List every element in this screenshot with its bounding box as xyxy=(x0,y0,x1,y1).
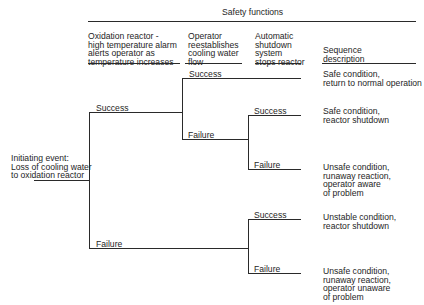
shutdown-split-a-line xyxy=(248,115,249,170)
operator-split-line xyxy=(182,78,183,140)
outcome-2: Safe condition, reactor shutdown xyxy=(323,107,389,124)
alarm-failure-line xyxy=(89,248,249,249)
column-header-sequence: Sequence description xyxy=(323,46,365,63)
safety-functions-title: Safety functions xyxy=(222,8,283,17)
initiating-event-label: Initiating event: Loss of cooling water … xyxy=(11,154,92,180)
shutdown-failure-b-line xyxy=(248,273,301,274)
column-underline-alarm xyxy=(88,63,180,64)
outcome-5: Unsafe condition, runaway reaction, oper… xyxy=(323,267,391,301)
outcome-1: Safe condition, return to normal operati… xyxy=(323,70,422,87)
column-underline-shutdown xyxy=(255,63,301,64)
outcome-3: Unsafe condition, runaway reaction, oper… xyxy=(323,163,391,197)
column-underline-sequence xyxy=(322,63,416,64)
column-underline-operator xyxy=(185,63,242,64)
alarm-success-line xyxy=(89,112,183,113)
initiating-event-line xyxy=(34,180,90,181)
column-header-alarm: Oxidation reactor - high temperature ala… xyxy=(88,32,177,66)
shutdown-success-a-line xyxy=(248,115,301,116)
header-rule xyxy=(88,21,416,22)
alarm-split-line xyxy=(89,112,90,249)
operator-success-line xyxy=(182,78,301,79)
shutdown-success-b-line xyxy=(248,219,301,220)
column-header-shutdown: Automatic shutdown system stops reactor xyxy=(255,32,305,66)
column-header-operator: Operator reestablishes cooling water flo… xyxy=(188,32,239,66)
shutdown-failure-a-line xyxy=(248,169,301,170)
operator-failure-line xyxy=(182,139,249,140)
shutdown-split-b-line xyxy=(248,219,249,274)
outcome-4: Unstable condition, reactor shutdown xyxy=(323,213,396,230)
